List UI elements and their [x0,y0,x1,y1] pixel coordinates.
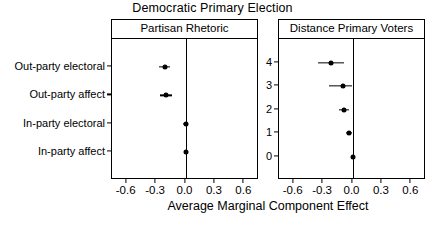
panel-partisan-rhetoric: Partisan Rhetoric [111,19,258,179]
x-tick-label: -0.6 [283,184,303,196]
y-tick-mark [107,94,111,95]
y-tick-mark [107,150,111,151]
y-tick-mark [274,84,278,85]
x-tick-label: -0.6 [116,184,136,196]
x-tick-label: 0.3 [206,184,222,196]
x-tick-label: 0.6 [402,184,418,196]
x-tick-mark [155,179,156,183]
data-point[interactable] [163,93,168,98]
panel-strip-label: Distance Primary Voters [279,20,424,39]
x-tick-mark [125,179,126,183]
x-tick-mark [351,179,352,183]
y-tick-label: 1 [266,126,272,138]
x-tick-mark [213,179,214,183]
data-point[interactable] [341,107,346,112]
x-axis-title: Average Marginal Component Effect [167,199,368,213]
data-point[interactable] [340,84,345,89]
y-tick-label: 4 [266,56,272,68]
y-tick-label: Out-party electoral [15,60,105,72]
y-tick-mark [274,155,278,156]
y-tick-mark [274,131,278,132]
y-tick-label: In-party affect [38,145,105,157]
y-tick-label: Out-party affect [29,88,105,100]
x-tick-label: -0.3 [312,184,332,196]
plot-area-right [279,39,424,178]
plot-area-left [112,39,257,178]
x-tick-mark [380,179,381,183]
panel-title-distance-primary-voters: Distance Primary Voters [290,23,413,35]
y-tick-label: 3 [266,79,272,91]
y-tick-mark [107,122,111,123]
x-tick-label: 0.0 [344,184,360,196]
data-point[interactable] [350,154,355,159]
y-tick-label: In-party electoral [23,117,105,129]
panel-distance-primary-voters: Distance Primary Voters [278,19,425,179]
data-point[interactable] [328,60,333,65]
data-point[interactable] [346,131,351,136]
panel-strip-label: Partisan Rhetoric [112,20,257,39]
data-point[interactable] [162,65,167,70]
y-tick-mark [274,108,278,109]
data-point[interactable] [183,121,188,126]
y-tick-label: 0 [266,150,272,162]
y-tick-label: 2 [266,103,272,115]
x-tick-mark [410,179,411,183]
panel-title-partisan-rhetoric: Partisan Rhetoric [140,23,228,35]
x-tick-label: 0.3 [373,184,389,196]
x-tick-label: 0.0 [177,184,193,196]
x-tick-label: 0.6 [235,184,251,196]
x-tick-label: -0.3 [145,184,165,196]
x-tick-mark [184,179,185,183]
y-tick-mark [274,61,278,62]
y-tick-mark [107,66,111,67]
zero-reference-line [186,39,187,178]
x-tick-mark [243,179,244,183]
chart-figure: Democratic Primary Election Partisan Rhe… [0,0,441,229]
data-point[interactable] [183,149,188,154]
chart-title: Democratic Primary Election [0,1,433,15]
x-tick-mark [322,179,323,183]
x-tick-mark [292,179,293,183]
